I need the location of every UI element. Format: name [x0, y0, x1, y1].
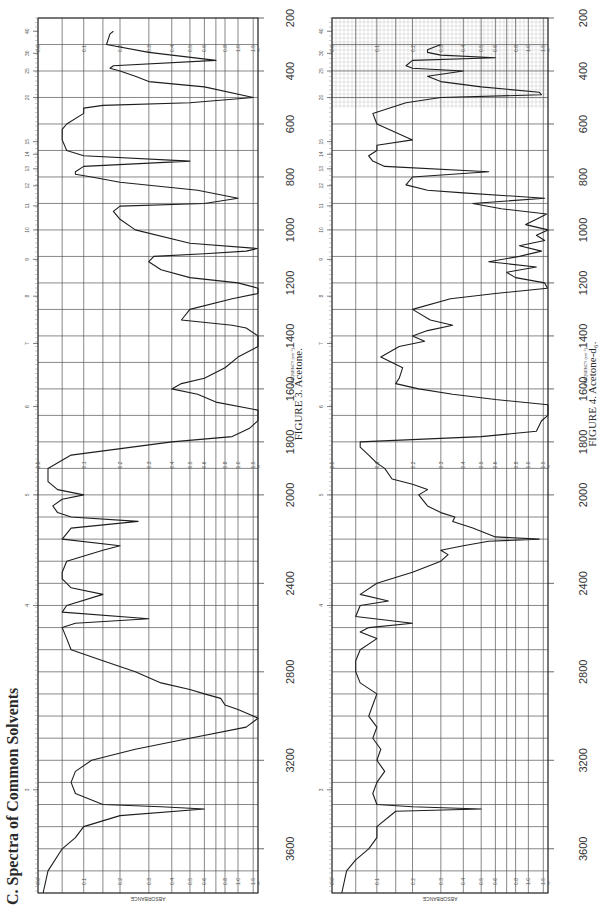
absorbance-tick-label: 0.5: [478, 878, 484, 885]
micron-tick-label: 4: [318, 604, 324, 607]
frequency-tick-label: 3600: [577, 837, 589, 861]
absorbance-tick-label: 0.4: [460, 878, 466, 885]
absorbance-tick-label: 0.6: [492, 45, 498, 52]
spectra-page: 0.00.10.20.30.40.50.60.81.01.5∞0.00.10.2…: [0, 0, 615, 907]
micron-tick-label: 30: [318, 50, 324, 56]
absorbance-tick-label: 0.6: [201, 461, 207, 468]
absorbance-tick-label: 0.4: [169, 461, 175, 468]
micron-tick-label: 14: [318, 151, 324, 157]
absorbance-tick-label: 0.1: [81, 461, 87, 468]
micron-tick-label: 8: [318, 295, 324, 298]
micron-tick-label: 40: [318, 28, 324, 34]
absorbance-tick-label: ∞: [255, 464, 261, 468]
absorbance-tick-label: 0.0: [35, 45, 41, 52]
micron-tick-label: 6: [318, 405, 324, 408]
absorbance-tick-label: 0.3: [146, 878, 152, 885]
absorbance-tick-label: 0.0: [35, 461, 41, 468]
frequency-tick-label: 2400: [577, 571, 589, 595]
frequency-tick-label: 1200: [284, 271, 296, 295]
absorbance-tick-label: 0.8: [513, 878, 519, 885]
micron-tick-label: 12: [318, 183, 324, 189]
figure-caption: FIGURE 3. Acetone.: [292, 348, 304, 441]
absorbance-axis-title: ABSORBANCE: [130, 896, 165, 902]
micron-tick-label: 14: [24, 151, 30, 157]
absorbance-tick-label: ∞: [545, 881, 551, 885]
absorbance-tick-label: 1.0: [525, 878, 531, 885]
absorbance-tick-label: 1.0: [525, 461, 531, 468]
frequency-tick-label: 3200: [577, 748, 589, 772]
frequency-tick-label: 2800: [577, 660, 589, 684]
frequency-tick-label: 3200: [284, 748, 296, 772]
frequency-tick-label: 400: [284, 62, 296, 80]
absorbance-tick-label: 0.6: [492, 878, 498, 885]
absorbance-tick-label: 0.5: [478, 45, 484, 52]
absorbance-tick-label: 0.5: [187, 461, 193, 468]
absorbance-axis-title: ABSORBANCE: [422, 896, 457, 902]
absorbance-tick-label: 0.2: [410, 45, 416, 52]
micron-tick-label: 13: [24, 166, 30, 172]
frequency-tick-label: 2000: [577, 483, 589, 507]
frequency-tick-label: 1400: [284, 324, 296, 348]
absorbance-tick-label: 0.3: [146, 45, 152, 52]
frequency-tick-label: 2800: [284, 660, 296, 684]
absorbance-tick-label: 0.6: [492, 461, 498, 468]
micron-tick-label: 7: [318, 342, 324, 345]
frequency-tick-label: 200: [577, 9, 589, 27]
absorbance-tick-label: 0.8: [513, 461, 519, 468]
absorbance-tick-label: 0.6: [201, 45, 207, 52]
absorbance-tick-label: 0.8: [222, 461, 228, 468]
frequency-tick-label: 1200: [577, 271, 589, 295]
absorbance-tick-label: 1.0: [235, 45, 241, 52]
absorbance-tick-label: 0.2: [117, 45, 123, 52]
absorbance-tick-label: 0.8: [513, 45, 519, 52]
micron-tick-label: 20: [318, 94, 324, 100]
absorbance-tick-label: 0.1: [81, 878, 87, 885]
absorbance-tick-label: 0.2: [117, 878, 123, 885]
absorbance-tick-label: 0.4: [460, 45, 466, 52]
absorbance-tick-label: 1.0: [235, 461, 241, 468]
micron-tick-label: 40: [24, 28, 30, 34]
micron-tick-label: 9: [318, 258, 324, 261]
micron-tick-label: 11: [318, 203, 324, 208]
micron-tick-label: 8: [24, 295, 30, 298]
absorbance-tick-label: 0.1: [374, 878, 380, 885]
micron-tick-label: 30: [24, 50, 30, 56]
micron-tick-label: 9: [24, 258, 30, 261]
micron-tick-label: 6: [24, 405, 30, 408]
micron-tick-label: 15: [24, 139, 30, 145]
absorbance-tick-label: 0.3: [146, 461, 152, 468]
micron-tick-label: 3: [24, 788, 30, 791]
absorbance-tick-label: 0.1: [81, 45, 87, 52]
frequency-tick-label: 600: [577, 115, 589, 133]
micron-tick-label: 25: [24, 68, 30, 74]
micron-tick-label: 5: [24, 493, 30, 496]
absorbance-tick-label: ∞: [545, 464, 551, 468]
frequency-tick-label: 600: [284, 115, 296, 133]
absorbance-tick-label: 0.8: [222, 45, 228, 52]
absorbance-tick-label: 0.4: [460, 461, 466, 468]
absorbance-tick-label: 0.8: [222, 878, 228, 885]
frequency-tick-label: 2400: [284, 571, 296, 595]
absorbance-tick-label: 1.0: [525, 45, 531, 52]
absorbance-tick-label: ∞: [255, 881, 261, 885]
frequency-tick-label: 800: [284, 168, 296, 186]
frequency-tick-label: 2000: [284, 483, 296, 507]
spectrum-chart-1: 0.00.10.20.30.40.50.60.81.01.5∞0.00.10.2…: [24, 9, 304, 902]
micron-tick-label: 13: [318, 166, 324, 172]
absorbance-tick-label: 0.0: [329, 878, 335, 885]
absorbance-tick-label: 0.0: [35, 878, 41, 885]
micron-tick-label: 5: [318, 493, 324, 496]
micron-tick-label: 15: [318, 139, 324, 145]
absorbance-tick-label: 0.5: [187, 45, 193, 52]
absorbance-tick-label: ∞: [545, 48, 551, 52]
frequency-tick-label: 1000: [577, 218, 589, 242]
absorbance-tick-label: 0.4: [169, 878, 175, 885]
figure-caption: FIGURE 4. Acetone-d₆.: [586, 341, 598, 447]
absorbance-tick-label: 0.2: [410, 461, 416, 468]
absorbance-tick-label: 0.2: [410, 878, 416, 885]
micron-tick-label: 7: [24, 342, 30, 345]
micron-tick-label: 10: [24, 227, 30, 233]
micron-tick-label: 10: [318, 227, 324, 233]
absorbance-tick-label: 0.6: [201, 878, 207, 885]
absorbance-tick-label: ∞: [255, 48, 261, 52]
